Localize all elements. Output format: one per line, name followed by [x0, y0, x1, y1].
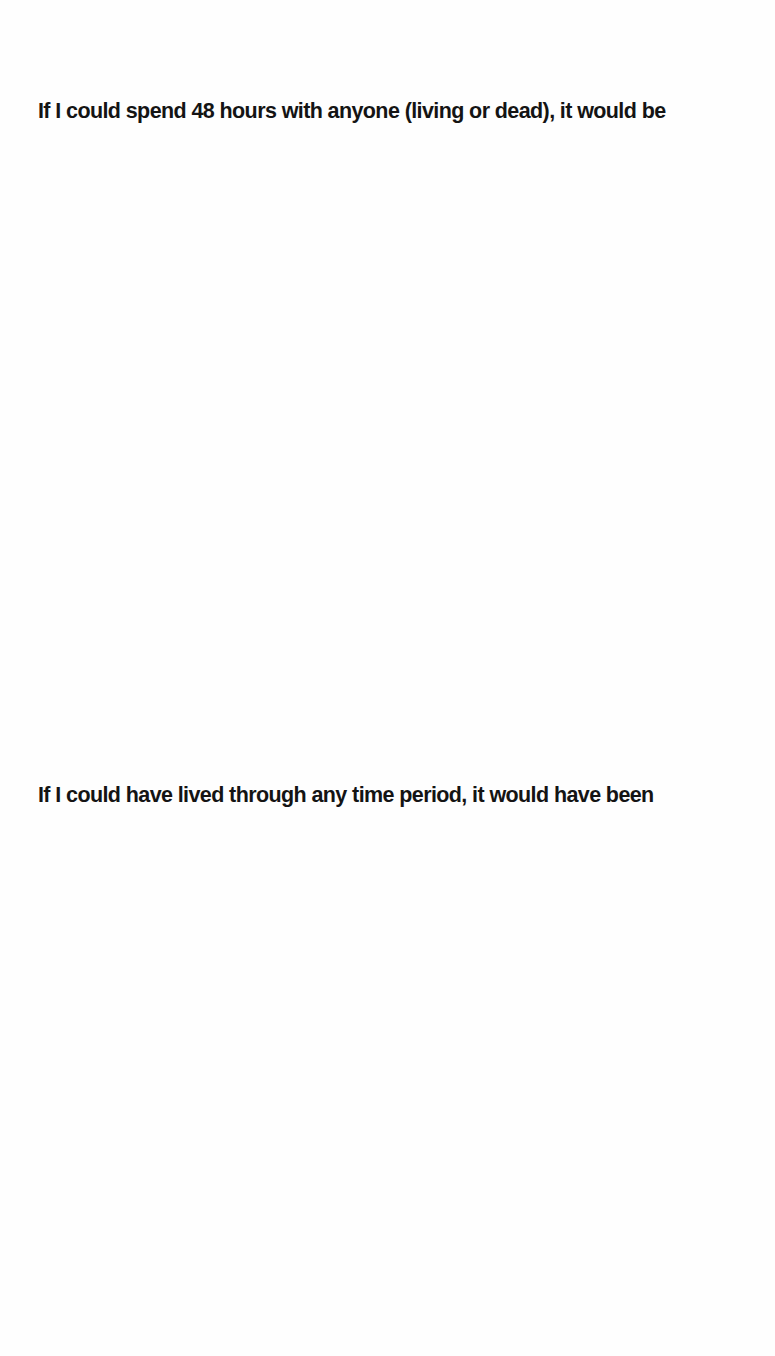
answer-space-1: [38, 140, 738, 760]
prompt-48-hours-with-anyone: If I could spend 48 hours with anyone (l…: [38, 101, 666, 123]
prompt-time-period: If I could have lived through any time p…: [38, 785, 654, 807]
answer-space-2: [38, 824, 738, 1324]
